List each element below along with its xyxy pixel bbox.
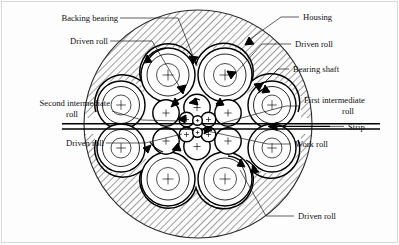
label-driven-roll-top-right: Driven roll bbox=[295, 39, 334, 49]
label-backing-bearing: Backing bearing bbox=[61, 13, 118, 23]
work-roll bbox=[193, 116, 203, 126]
backing-bearing bbox=[141, 152, 195, 206]
work-roll bbox=[193, 128, 203, 138]
label-first-intermediate-roll-line2: roll bbox=[342, 106, 355, 116]
label-strip: Strip bbox=[348, 122, 365, 132]
figure-canvas: Backing bearing Driven roll Second inter… bbox=[0, 0, 399, 245]
backing-bearing bbox=[248, 81, 296, 129]
label-bearing-shaft: Bearing shaft bbox=[293, 64, 340, 74]
backing-bearing bbox=[198, 48, 252, 102]
backing-bearing bbox=[97, 124, 145, 172]
label-second-intermediate-roll-line2: roll bbox=[66, 109, 79, 119]
label-second-intermediate-roll-line1: Second intermediate bbox=[40, 98, 111, 108]
label-driven-roll-bottom-right: Driven roll bbox=[298, 211, 337, 221]
backing-bearing bbox=[248, 124, 296, 172]
label-first-intermediate-roll-line1: First intermediate bbox=[304, 95, 365, 105]
label-driven-roll-top-left: Driven roll bbox=[70, 36, 109, 46]
backing-bearing bbox=[198, 152, 252, 206]
label-work-roll: Work roll bbox=[295, 139, 329, 149]
backing-bearing bbox=[141, 48, 195, 102]
second-intermediate-roll bbox=[215, 128, 241, 154]
label-housing: Housing bbox=[303, 12, 333, 22]
rolling-mill-diagram: Backing bearing Driven roll Second inter… bbox=[0, 0, 399, 245]
label-driven-roll-left: Driven roll bbox=[66, 138, 105, 148]
